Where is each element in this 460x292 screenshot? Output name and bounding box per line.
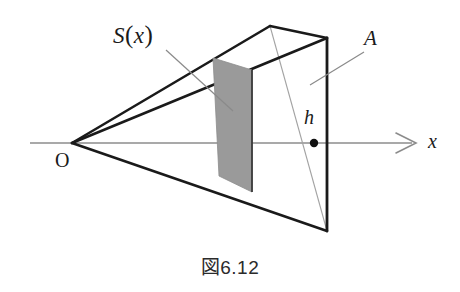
- figure-caption-prefix: 図: [201, 256, 221, 278]
- base-face-label: A: [364, 28, 377, 49]
- cross-section-label-s: S: [113, 23, 125, 48]
- x-axis-label: x: [428, 131, 437, 151]
- base-face-leader-line: [310, 52, 364, 85]
- edge-apex-to-top-front: [72, 38, 327, 143]
- edge-top-back-to-top-front: [270, 26, 327, 38]
- height-marker-dot: [310, 139, 318, 147]
- figure-drawing: [0, 0, 460, 292]
- cross-section-label-close-paren: ): [145, 21, 154, 48]
- cross-section-label-open-paren: (: [125, 21, 134, 48]
- cross-section-label-x: x: [134, 23, 145, 48]
- figure-caption-number: 6.12: [220, 257, 259, 278]
- figure-container: S(x) A h x O 図6.12: [0, 0, 460, 292]
- cross-section-shaded-area: [213, 58, 252, 192]
- height-label: h: [304, 107, 314, 127]
- figure-caption: 図6.12: [0, 252, 460, 279]
- edge-apex-to-bottom-front: [72, 143, 327, 231]
- cross-section-label: S(x): [113, 22, 153, 47]
- origin-label: O: [55, 150, 69, 170]
